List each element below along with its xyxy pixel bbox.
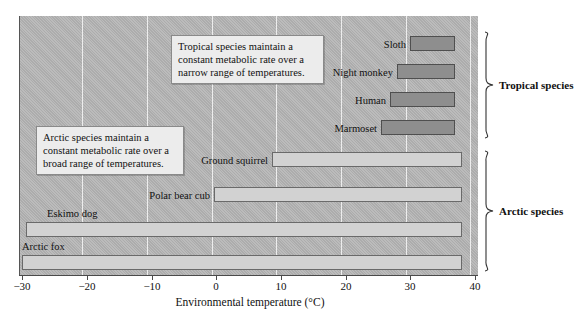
bar-label-eskimo-dog: Eskimo dog <box>47 208 97 219</box>
x-ticklabel--20: −20 <box>67 281 107 292</box>
x-ticklabel-20: 20 <box>326 281 366 292</box>
bar-arctic-fox <box>22 255 462 270</box>
arctic-bracket-label: Arctic species <box>499 206 563 217</box>
bar-label-sloth: Sloth <box>330 39 406 50</box>
bar-label-night-monkey: Night monkey <box>313 67 393 78</box>
x-ticklabel-10: 10 <box>261 281 301 292</box>
x-ticklabel-0: 0 <box>196 281 236 292</box>
bar-label-polar-bear-cub: Polar bear cub <box>128 190 210 201</box>
tropical-callout: Tropical species maintain a constant met… <box>171 35 324 84</box>
bar-label-marmoset: Marmoset <box>297 123 377 134</box>
gridline-40 <box>470 16 471 275</box>
bar-human <box>390 92 455 107</box>
bar-sloth <box>410 36 455 51</box>
x-ticklabel-30: 30 <box>390 281 430 292</box>
bar-marmoset <box>381 120 455 135</box>
bar-ground-squirrel <box>272 152 462 167</box>
bar-label-arctic-fox: Arctic fox <box>22 241 65 252</box>
tropical-bracket <box>482 30 496 140</box>
x-ticklabel--10: −10 <box>132 281 172 292</box>
bar-label-ground-squirrel: Ground squirrel <box>186 155 268 166</box>
bar-polar-bear-cub <box>214 187 462 202</box>
bar-eskimo-dog <box>26 222 462 237</box>
bar-label-human: Human <box>306 95 386 106</box>
x-axis-title: Environmental temperature (°C) <box>0 296 500 308</box>
thermoneutral-zone-figure: Sloth Night monkey Human Marmoset Ground… <box>0 0 580 319</box>
x-ticklabel-40: 40 <box>455 281 495 292</box>
arctic-bracket <box>482 149 496 273</box>
bar-night-monkey <box>397 64 455 79</box>
arctic-callout: Arctic species maintain a constant metab… <box>36 126 184 175</box>
x-ticklabel--30: −30 <box>2 281 42 292</box>
tropical-bracket-label: Tropical species <box>499 80 573 91</box>
